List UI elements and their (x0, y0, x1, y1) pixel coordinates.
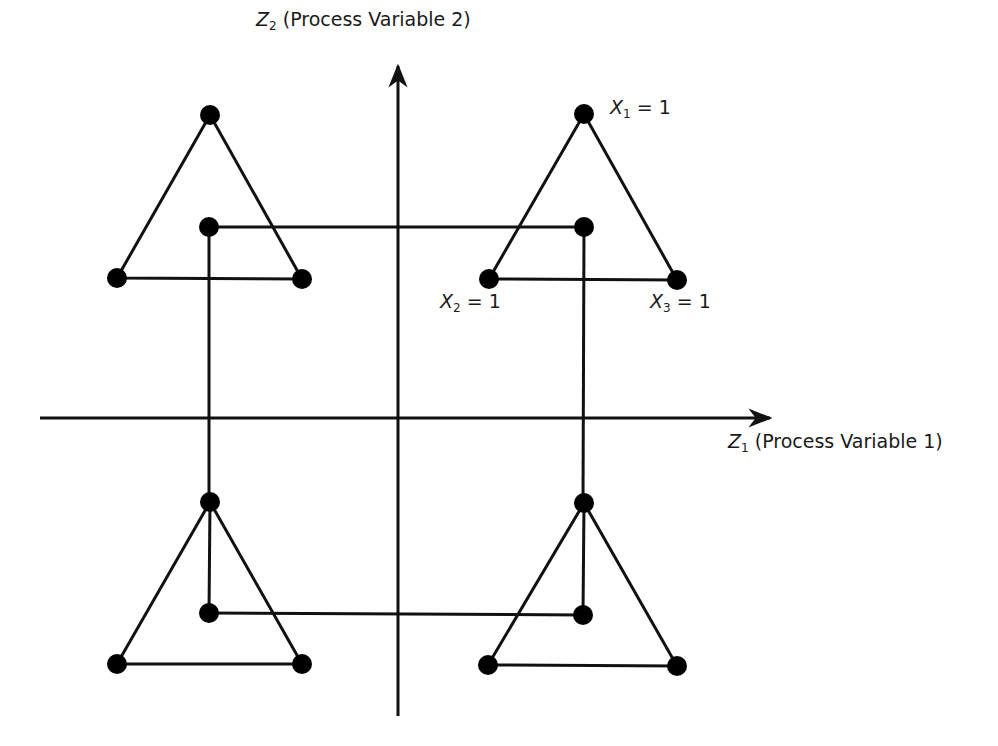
node-bottom-left-left (107, 654, 127, 674)
node-top-left-left (107, 268, 127, 288)
x2-value: = 1 (467, 290, 501, 312)
node-bottom-left-right (292, 654, 312, 674)
node-top-left-apex (200, 105, 220, 125)
x3-subscript: 3 (663, 301, 671, 315)
z2-label-text: (Process Variable 2) (283, 8, 471, 30)
x2-subscript: 2 (453, 301, 461, 315)
node-top-right-left (479, 269, 499, 289)
factor-space-diagram (0, 0, 998, 746)
node-bottom-right-right (667, 656, 687, 676)
x2-symbol: X (440, 290, 453, 312)
x3-label: X3 = 1 (650, 290, 711, 315)
node-top-left-inner (199, 217, 219, 237)
x1-subscript: 1 (623, 107, 631, 121)
node-bottom-left-inner (199, 603, 219, 623)
z1-axis-label: Z1 (Process Variable 1) (728, 430, 943, 455)
x2-label: X2 = 1 (440, 290, 501, 315)
node-top-right-inner (574, 217, 594, 237)
x1-symbol: X (610, 96, 623, 118)
z2-subscript: 2 (269, 19, 277, 33)
node-bottom-right-inner (573, 605, 593, 625)
z2-axis-label: Z2 (Process Variable 2) (256, 8, 471, 33)
x3-symbol: X (650, 290, 663, 312)
node-top-left-right (292, 269, 312, 289)
z2-symbol: Z (256, 8, 269, 30)
x3-value: = 1 (677, 290, 711, 312)
z1-subscript: 1 (741, 441, 749, 455)
node-bottom-left-apex (200, 492, 220, 512)
x1-value: = 1 (637, 96, 671, 118)
z1-symbol: Z (728, 430, 741, 452)
x1-label: X1 = 1 (610, 96, 671, 121)
z1-label-text: (Process Variable 1) (755, 430, 943, 452)
node-bottom-right-apex (574, 493, 594, 513)
node-top-right-right (667, 270, 687, 290)
node-bottom-right-left (478, 655, 498, 675)
node-top-right-apex (574, 104, 594, 124)
